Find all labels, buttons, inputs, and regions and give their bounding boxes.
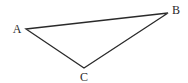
triangle-abc [26, 13, 168, 68]
triangle-diagram: A B C [0, 0, 188, 83]
vertex-label-b: B [172, 3, 180, 17]
vertex-label-a: A [13, 22, 22, 36]
triangle-svg: A B C [0, 0, 188, 83]
vertex-label-c: C [80, 70, 88, 83]
